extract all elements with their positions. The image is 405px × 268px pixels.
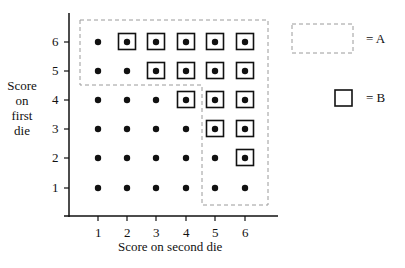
y-label-line: first <box>2 108 42 123</box>
y-tick-label: 2 <box>52 151 59 165</box>
outcome-dot <box>95 68 101 74</box>
outcome-dot <box>183 185 189 191</box>
y-tick-label: 1 <box>52 181 59 195</box>
legend-a-label: = A <box>366 32 385 46</box>
x-tick-label: 2 <box>124 226 131 240</box>
y-tick-label: 3 <box>52 122 59 136</box>
y-label-line: die <box>2 123 42 138</box>
outcome-dot <box>124 68 130 74</box>
x-tick-label: 5 <box>212 226 219 240</box>
outcome-dot <box>212 39 218 45</box>
outcome-dot <box>153 126 159 132</box>
outcome-dot <box>242 68 248 74</box>
y-tick-label: 5 <box>52 64 59 78</box>
outcome-dot <box>242 155 248 161</box>
legend-b-label: = B <box>366 91 385 105</box>
outcome-dot <box>124 126 130 132</box>
outcome-dot <box>242 39 248 45</box>
sample-space-diagram <box>0 0 405 268</box>
outcome-dot <box>212 185 218 191</box>
x-tick-label: 6 <box>242 226 249 240</box>
outcome-dot <box>242 185 248 191</box>
outcome-dot <box>153 185 159 191</box>
outcome-dot <box>95 185 101 191</box>
event-a-region <box>80 20 268 205</box>
outcome-dot <box>95 126 101 132</box>
outcome-dot <box>183 155 189 161</box>
outcome-dot <box>212 126 218 132</box>
outcome-points <box>95 34 254 192</box>
outcome-dot <box>212 155 218 161</box>
outcome-dot <box>124 185 130 191</box>
outcome-dot <box>212 97 218 103</box>
outcome-dot <box>183 68 189 74</box>
y-label-line: Score <box>2 78 42 93</box>
outcome-dot <box>124 155 130 161</box>
y-axis-label: Score on first die <box>2 78 42 138</box>
outcome-dot <box>124 97 130 103</box>
x-tick-label: 3 <box>153 226 160 240</box>
legend-a-swatch <box>292 24 353 53</box>
y-tick-label: 6 <box>52 35 59 49</box>
outcome-dot <box>95 39 101 45</box>
y-label-line: on <box>2 93 42 108</box>
x-tick-label: 4 <box>183 226 190 240</box>
outcome-dot <box>153 68 159 74</box>
x-tick-label: 1 <box>95 226 102 240</box>
outcome-dot <box>124 39 130 45</box>
y-tick-label: 4 <box>52 93 59 107</box>
outcome-dot <box>242 97 248 103</box>
outcome-dot <box>183 126 189 132</box>
outcome-dot <box>153 39 159 45</box>
outcome-dot <box>153 97 159 103</box>
outcome-dot <box>212 68 218 74</box>
outcome-dot <box>95 155 101 161</box>
outcome-dot <box>183 97 189 103</box>
outcome-dot <box>95 97 101 103</box>
outcome-dot <box>153 155 159 161</box>
outcome-dot <box>242 126 248 132</box>
legend-b-swatch <box>335 90 352 106</box>
x-axis-label: Score on second die <box>118 240 222 254</box>
outcome-dot <box>183 39 189 45</box>
